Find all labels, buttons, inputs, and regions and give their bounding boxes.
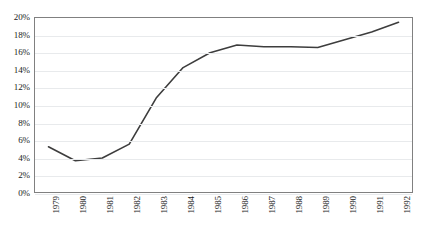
gridline [35, 53, 412, 54]
gridline [35, 71, 412, 72]
x-tick-label: 1980 [79, 196, 88, 214]
gridline [35, 159, 412, 160]
x-tick-label: 1989 [322, 196, 331, 214]
x-tick-label: 1983 [160, 196, 169, 214]
x-tick-label: 1985 [214, 196, 223, 214]
data-series-line [48, 22, 398, 160]
x-tick-label: 1991 [376, 196, 385, 214]
y-tick-label: 2% [18, 171, 30, 180]
y-tick-label: 10% [14, 101, 30, 110]
y-tick-label: 6% [18, 136, 30, 145]
x-tick-label: 1982 [133, 196, 142, 214]
gridline [35, 106, 412, 107]
y-tick-label: 8% [18, 118, 30, 127]
y-tick-label: 18% [14, 30, 30, 39]
x-tick-label: 1990 [349, 196, 358, 214]
y-tick-label: 20% [14, 13, 30, 22]
x-tick-label: 1986 [241, 196, 250, 214]
y-tick-label: 12% [14, 83, 30, 92]
y-tick-label: 4% [18, 153, 30, 162]
x-tick-label: 1979 [52, 196, 61, 214]
x-tick-label: 1987 [268, 196, 277, 214]
gridline [35, 88, 412, 89]
y-tick-label: 14% [14, 65, 30, 74]
plot-area [34, 17, 413, 193]
x-tick-label: 1992 [403, 196, 412, 214]
gridline [35, 141, 412, 142]
gridline [35, 36, 412, 37]
x-tick-label: 1988 [295, 196, 304, 214]
data-line-svg [35, 18, 412, 192]
x-tick-label: 1981 [106, 196, 115, 214]
gridline [35, 124, 412, 125]
line-chart: 0%2%4%6%8%10%12%14%16%18%20% 19791980198… [0, 0, 424, 249]
gridline [35, 176, 412, 177]
y-tick-label: 16% [14, 48, 30, 57]
x-tick-label: 1984 [187, 196, 196, 214]
x-axis: 1979198019811982198319841985198619871988… [0, 194, 424, 249]
